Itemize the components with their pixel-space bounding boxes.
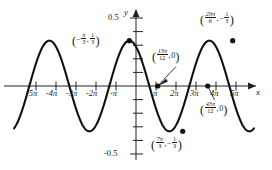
point-minimum [180,129,185,134]
x-tick-label-3pi: 3π [190,89,199,98]
y-axis-label: y [124,8,128,17]
x-tick-label-5pi: 5π [230,89,239,98]
ann-min-x-frac: 7π3 [156,136,164,150]
ann-zero-two-x-frac: 43π12 [205,101,216,115]
ann-max-right-y-sign: − [219,14,224,23]
x-tick-label-neg4pi: -4π [46,89,57,98]
annotation-maximum-left: (−π3, 13) [72,32,100,46]
x-tick-label-2pi: 2π [170,89,179,98]
x-tick-label-4pi: 4π [210,89,219,98]
axis-lines [4,10,256,160]
x-axis-label: x [256,88,260,97]
ann-max-right-x-frac: 29π6 [205,11,216,25]
x-tick-label-neg1pi: -π [110,89,117,98]
y-axis-arrowhead [133,9,140,17]
annotation-zero-one: (13π12, 0) [152,48,179,62]
ann-max-left-y-frac: 13 [90,32,95,46]
annotation-minimum: (7π3, −13) [151,136,182,150]
y-tick-label-negative: -0.5 [104,149,117,158]
annotation-maximum-right: (29π6, −13) [200,11,234,25]
annotation-zero-two: (43π12, 0) [200,101,227,115]
point-maximum-left [127,38,132,43]
x-tick-label-neg3pi: -3π [66,89,77,98]
ann-zero-one-x-frac: 13π12 [157,48,168,62]
leader-line-zero-one [158,67,176,87]
ann-max-right-y-frac: 13 [224,11,229,25]
x-tick-label-neg2pi: -2π [86,89,97,98]
point-maximum-right [230,38,235,43]
x-axis-arrowhead [248,83,256,90]
ann-min-y-sign: − [167,139,172,148]
ann-max-left-x-sign: − [76,35,81,44]
ann-max-left-x-frac: π3 [81,32,86,46]
ann-min-y-frac: 13 [172,136,177,150]
cosine-graph-figure: y x 0.5 -0.5 -5π -4π -3π -2π -π π 2π 3π … [0,0,272,170]
x-tick-label-neg5pi: -5π [26,89,37,98]
y-tick-label-positive: 0.5 [108,13,119,22]
x-tick-label-pi: π [153,89,157,98]
